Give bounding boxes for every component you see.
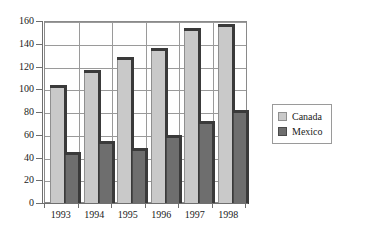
y-tick-140 [36,44,42,45]
y-tick-40 [36,158,42,159]
bar-canada-1996 [151,51,165,204]
bar-mexico-1996 [166,138,179,204]
x-tick-2 [111,203,112,208]
x-tick-4 [178,203,179,208]
bar-canada-1998 [218,27,232,204]
bar-mexico-1998 [233,113,246,204]
y-axis-label-40: 40 [0,153,34,163]
bar-canada-1994 [84,73,98,204]
y-axis-line [42,21,43,203]
bar-mexico-1995 [132,151,145,204]
x-tick-3 [145,203,146,208]
y-tick-100 [36,89,42,90]
bar-chart: 160 140 120 100 80 60 40 20 0 1993 1994 … [0,0,365,234]
y-axis-label-80: 80 [0,107,34,117]
chart-legend: Canada Mexico [272,104,332,144]
bar-mexico-1993 [65,155,78,204]
bar-canada-1993 [50,88,64,204]
y-axis-label-120: 120 [0,62,34,72]
bar-canada-1997 [184,31,198,204]
legend-label-canada: Canada [292,111,322,122]
legend-item-canada: Canada [278,109,323,124]
y-tick-80 [36,112,42,113]
x-tick-5 [212,203,213,208]
legend-swatch-canada-icon [278,112,287,121]
plot-area [44,21,247,203]
y-axis-label-160: 160 [0,16,34,26]
legend-swatch-mexico-icon [278,127,287,136]
x-tick-0 [44,203,45,208]
legend-label-mexico: Mexico [292,126,323,137]
y-axis-label-140: 140 [0,39,34,49]
x-tick-1 [78,203,79,208]
bar-canada-1995 [117,60,131,204]
y-tick-60 [36,135,42,136]
y-tick-120 [36,67,42,68]
y-axis-label-60: 60 [0,130,34,140]
x-tick-6 [245,203,246,208]
y-axis-label-0: 0 [0,198,34,208]
y-axis-label-100: 100 [0,84,34,94]
y-axis-label-20: 20 [0,175,34,185]
x-axis-label-1998: 1998 [208,209,248,220]
y-tick-20 [36,180,42,181]
legend-item-mexico: Mexico [278,124,323,139]
bar-mexico-1994 [99,144,112,204]
y-tick-160 [36,21,42,22]
bar-mexico-1997 [199,124,212,204]
